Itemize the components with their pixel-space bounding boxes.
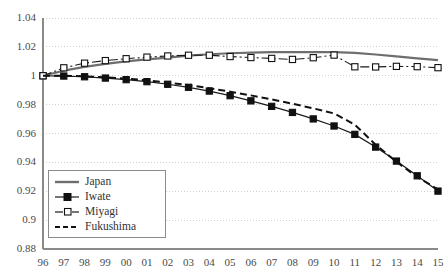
data-point [227,93,233,99]
data-point [310,55,316,61]
data-point [185,52,191,58]
legend-label-iwate: Iwate [85,191,111,203]
data-point [61,65,67,71]
data-point [352,64,358,70]
x-tick-label: 98 [74,257,96,268]
data-point [227,53,233,59]
x-tick-label: 14 [406,257,428,268]
legend-swatch-iwate [54,191,80,203]
x-tick-label: 07 [261,257,283,268]
legend-item-miyagi: Miyagi [54,204,159,219]
data-point [269,103,275,109]
legend-label-japan: Japan [85,176,111,188]
x-tick-label: 06 [240,257,262,268]
y-tick-label: 1 [0,70,36,81]
data-point [165,53,171,59]
data-point [248,98,254,104]
data-point [123,56,129,62]
legend-label-fukushima: Fukushima [85,221,136,233]
legend-item-iwate: Iwate [54,189,159,204]
legend-swatch-japan [54,176,80,188]
data-point [289,56,295,62]
data-point [144,54,150,60]
x-tick-label: 00 [115,257,137,268]
line-chart: Japan Iwate Miyagi Fukushima 1.041.0210.… [0,0,446,280]
y-tick-label: 0.94 [0,156,36,167]
x-tick-label: 99 [94,257,116,268]
data-point [289,109,295,115]
x-tick-label: 11 [344,257,366,268]
data-point [81,60,87,66]
y-tick-label: 0.96 [0,128,36,139]
chart-canvas [0,0,446,280]
x-tick-label: 03 [178,257,200,268]
data-point [269,55,275,61]
data-point [331,123,337,129]
data-point [373,64,379,70]
x-tick-label: 01 [136,257,158,268]
data-point [102,57,108,63]
y-tick-label: 0.88 [0,243,36,254]
data-point [352,131,358,137]
y-tick-label: 0.92 [0,185,36,196]
legend-swatch-miyagi [54,206,80,218]
x-tick-label: 10 [323,257,345,268]
legend-item-fukushima: Fukushima [54,219,159,234]
data-point [123,77,129,83]
y-tick-label: 0.98 [0,99,36,110]
y-tick-label: 0.9 [0,214,36,225]
legend-item-japan: Japan [54,174,159,189]
x-tick-label: 08 [281,257,303,268]
x-tick-label: 13 [385,257,407,268]
legend-label-miyagi: Miyagi [85,206,118,218]
data-point [248,54,254,60]
chart-legend: Japan Iwate Miyagi Fukushima [48,170,166,238]
x-tick-label: 09 [302,257,324,268]
data-point [310,116,316,122]
legend-swatch-fukushima [54,221,80,233]
x-tick-label: 15 [427,257,446,268]
data-point [435,65,441,71]
x-tick-label: 05 [219,257,241,268]
x-tick-label: 04 [198,257,220,268]
x-tick-label: 96 [32,257,54,268]
x-tick-label: 97 [53,257,75,268]
data-point [393,63,399,69]
x-tick-label: 02 [157,257,179,268]
data-point [414,64,420,70]
data-point [331,52,337,58]
y-tick-label: 1.04 [0,12,36,23]
data-point [206,52,212,58]
y-tick-label: 1.02 [0,41,36,52]
x-tick-label: 12 [365,257,387,268]
